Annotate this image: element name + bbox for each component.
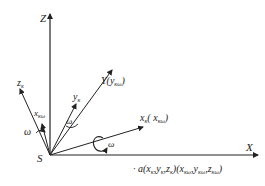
x-kw-label: xκω [33, 108, 45, 119]
x-k-label: xκ( xκω) [139, 112, 169, 124]
origin-label: S [37, 152, 43, 164]
point-label: · a(xκ,yκ,zκ)(xκω,yκω,zκω) [133, 163, 223, 175]
Y-label: Y(yκω) [101, 75, 125, 87]
z-k-vector [20, 89, 50, 155]
y-k-label: yκ [72, 91, 80, 103]
omega-label-2: ω [66, 116, 72, 126]
z-axis-label: Z [40, 12, 47, 24]
omega-label-1: ω [24, 126, 31, 137]
y-k-vector [50, 104, 76, 155]
z-k-label: zκ [16, 77, 24, 89]
x-axis-label: X [245, 141, 254, 153]
x-k-vector [50, 127, 143, 155]
omega-label-3: ω [108, 139, 114, 149]
coordinate-system-diagram: Z X zκ xκω ω yκ Y(yκω) ω xκ( xκω) ω S · … [0, 0, 265, 186]
